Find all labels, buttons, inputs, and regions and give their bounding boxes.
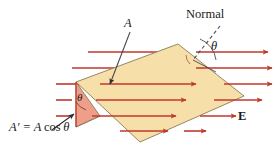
electric-flux-diagram: A Normal θ θ E A′ = A cos θ: [0, 0, 276, 156]
label-projected-area-formula: A′ = A cos θ: [9, 121, 69, 134]
label-area-A: A: [124, 17, 132, 30]
formula-lhs: A′ = A: [9, 120, 41, 134]
tilted-surface-area-A: [76, 44, 244, 142]
label-theta-triangle: θ: [77, 92, 82, 103]
formula-angle: θ: [63, 120, 69, 134]
label-normal: Normal: [186, 8, 224, 21]
label-electric-field-E: E: [238, 110, 246, 123]
label-theta-normal-field: θ: [211, 40, 217, 53]
formula-cos: cos: [44, 120, 61, 134]
